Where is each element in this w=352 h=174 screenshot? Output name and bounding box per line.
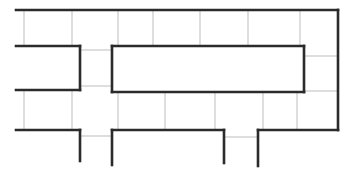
maze-diagram [0, 0, 352, 174]
maze-page [0, 0, 352, 174]
